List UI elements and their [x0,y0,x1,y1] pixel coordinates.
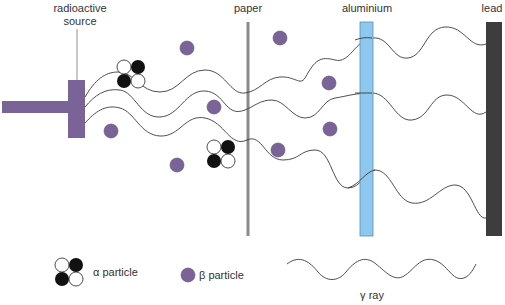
paper-barrier [247,22,250,236]
beta-particle [271,143,285,157]
legend-alpha-icon [55,258,83,286]
alpha-particle [207,140,235,168]
gamma-ray-path-2 [85,90,486,120]
radioactive-source [2,80,85,138]
aluminium-label: aluminium [342,2,392,14]
source-label-line2: source [63,15,96,27]
legend-alpha-label: α particle [93,266,138,278]
source-label-line1: radioactive [53,2,106,14]
alpha-particle [117,60,145,88]
gamma-rays [85,27,486,218]
radiation-penetration-diagram: radioactive source paper aluminium lead [0,0,505,305]
beta-particle [273,31,287,45]
legend-beta-icon [181,268,195,282]
gamma-ray-path-3 [85,107,486,218]
legend-gamma-icon [287,259,476,279]
beta-particle [322,76,336,90]
beta-particles [104,31,337,172]
legend-beta-label: β particle [199,269,244,281]
paper-label: paper [234,2,262,14]
aluminium-barrier [360,22,373,236]
legend-gamma-label: γ ray [360,289,384,301]
lead-label: lead [482,2,503,14]
lead-barrier [486,22,502,236]
beta-particle [104,124,118,138]
beta-particle [180,41,194,55]
legend: α particle β particle γ ray [55,258,476,301]
beta-particle [207,100,221,114]
beta-particle [323,122,337,136]
beta-particle [170,158,184,172]
